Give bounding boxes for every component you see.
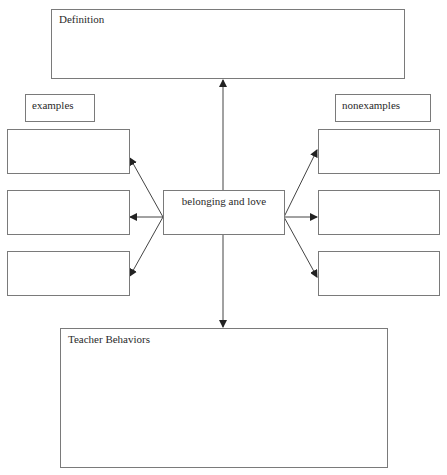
- nonexample-box-3[interactable]: [318, 251, 440, 296]
- examples-header-box: examples: [25, 94, 95, 122]
- nonexample-box-2[interactable]: [318, 190, 440, 235]
- teacher-behaviors-box[interactable]: Teacher Behaviors: [60, 328, 388, 468]
- example-box-3[interactable]: [7, 251, 130, 296]
- definition-box[interactable]: Definition: [51, 9, 405, 79]
- definition-label: Definition: [59, 13, 104, 26]
- example-box-2[interactable]: [7, 190, 130, 235]
- center-concept-box[interactable]: belonging and love: [163, 190, 285, 235]
- teacher-behaviors-label: Teacher Behaviors: [68, 333, 150, 346]
- nonexamples-header-box: nonexamples: [335, 94, 431, 122]
- center-concept-label: belonging and love: [164, 195, 284, 208]
- nonexample-box-1[interactable]: [318, 129, 440, 174]
- example-box-1[interactable]: [7, 129, 130, 174]
- examples-label: examples: [32, 99, 74, 112]
- nonexamples-label: nonexamples: [342, 99, 400, 112]
